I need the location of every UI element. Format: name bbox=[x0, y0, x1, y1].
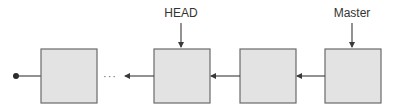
commit-box-2 bbox=[154, 49, 210, 103]
master-label: Master bbox=[334, 6, 371, 20]
commit-box-1 bbox=[41, 49, 97, 103]
commit-chain-diagram: ··· HEAD Master bbox=[0, 0, 393, 109]
ellipsis: ··· bbox=[103, 70, 117, 82]
head-label: HEAD bbox=[164, 6, 198, 20]
commit-box-3 bbox=[240, 49, 296, 103]
commit-box-4 bbox=[325, 49, 381, 103]
root-marker bbox=[13, 73, 41, 79]
